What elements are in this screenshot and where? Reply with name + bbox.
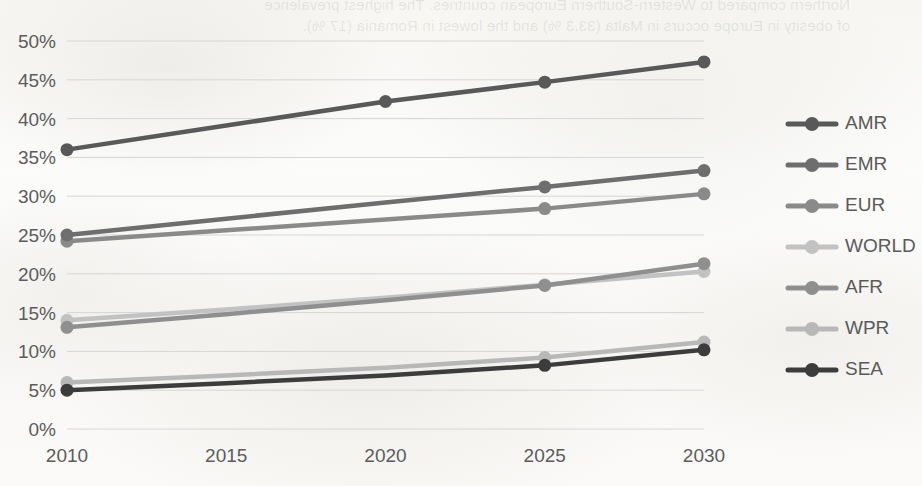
legend-label-WORLD: WORLD (845, 235, 916, 256)
legend-label-AFR: AFR (845, 276, 883, 297)
data-point-AFR-2030 (698, 257, 711, 270)
data-point-EMR-2025 (538, 180, 551, 193)
y-tick-label: 45% (18, 70, 56, 91)
legend-label-AMR: AMR (845, 112, 887, 133)
data-point-AFR-2010 (61, 321, 74, 334)
x-tick-label: 2030 (683, 445, 725, 466)
series-line-SEA (67, 350, 704, 390)
legend-item-EUR[interactable]: EUR (788, 194, 885, 215)
legend-label-WPR: WPR (845, 317, 889, 338)
chart-legend: AMREMREURWORLDAFRWPRSEA (788, 112, 916, 379)
x-tick-label: 2025 (524, 445, 566, 466)
x-axis-tick-labels: 20102015202020252030 (46, 445, 725, 466)
y-tick-label: 10% (18, 341, 56, 362)
y-tick-label: 15% (18, 303, 56, 324)
y-axis-tick-labels: 0%5%10%15%20%25%30%35%40%45%50% (18, 31, 56, 440)
data-point-EMR-2010 (61, 229, 74, 242)
y-tick-label: 20% (18, 264, 56, 285)
legend-label-EMR: EMR (845, 153, 887, 174)
data-point-AMR-2020 (379, 95, 392, 108)
legend-swatch-marker-SEA (805, 363, 819, 377)
y-tick-label: 30% (18, 186, 56, 207)
series-WPR (61, 336, 711, 389)
data-point-EUR-2025 (538, 202, 551, 215)
y-tick-label: 35% (18, 147, 56, 168)
legend-swatch-marker-WORLD (805, 240, 819, 254)
legend-swatch-marker-WPR (805, 322, 819, 336)
data-point-SEA-2010 (61, 384, 74, 397)
legend-label-SEA: SEA (845, 358, 883, 379)
data-point-SEA-2025 (538, 359, 551, 372)
y-tick-label: 5% (29, 380, 57, 401)
y-tick-label: 40% (18, 109, 56, 130)
legend-item-WPR[interactable]: WPR (788, 317, 889, 338)
legend-item-SEA[interactable]: SEA (788, 358, 883, 379)
legend-item-EMR[interactable]: EMR (788, 153, 887, 174)
data-point-AMR-2025 (538, 76, 551, 89)
legend-swatch-marker-AMR (805, 117, 819, 131)
y-tick-label: 25% (18, 225, 56, 246)
data-point-EMR-2030 (698, 164, 711, 177)
legend-swatch-marker-EUR (805, 199, 819, 213)
legend-item-WORLD[interactable]: WORLD (788, 235, 916, 256)
data-point-EUR-2030 (698, 187, 711, 200)
x-tick-label: 2010 (46, 445, 88, 466)
data-point-SEA-2030 (698, 343, 711, 356)
data-point-AFR-2025 (538, 279, 551, 292)
legend-swatch-marker-AFR (805, 281, 819, 295)
legend-item-AMR[interactable]: AMR (788, 112, 887, 133)
x-tick-label: 2015 (205, 445, 247, 466)
data-series-layer (61, 55, 711, 396)
line-chart: 0%5%10%15%20%25%30%35%40%45%50% 20102015… (0, 0, 922, 486)
legend-item-AFR[interactable]: AFR (788, 276, 883, 297)
data-point-AMR-2010 (61, 143, 74, 156)
legend-label-EUR: EUR (845, 194, 885, 215)
series-AFR (61, 257, 711, 334)
data-point-AMR-2030 (698, 55, 711, 68)
y-tick-label: 0% (29, 419, 57, 440)
series-line-AFR (67, 264, 704, 328)
legend-swatch-marker-EMR (805, 158, 819, 172)
chart-canvas: 0%5%10%15%20%25%30%35%40%45%50% 20102015… (0, 0, 922, 486)
x-tick-label: 2020 (364, 445, 406, 466)
y-tick-label: 50% (18, 31, 56, 52)
series-AMR (61, 55, 711, 156)
